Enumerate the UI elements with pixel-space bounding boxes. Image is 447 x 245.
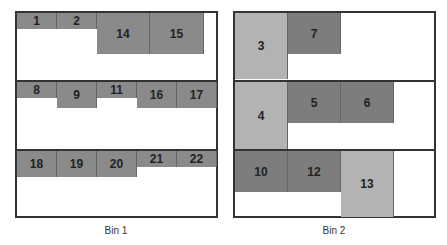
item-21: 21 bbox=[137, 151, 177, 167]
item-12: 12 bbox=[288, 151, 341, 192]
item-6: 6 bbox=[341, 82, 394, 123]
item-10: 10 bbox=[235, 151, 288, 192]
bin-2-label: Bin 2 bbox=[284, 225, 384, 236]
item-20: 20 bbox=[97, 151, 137, 177]
item-17: 17 bbox=[177, 82, 217, 108]
item-7: 7 bbox=[288, 13, 341, 54]
item-11: 11 bbox=[97, 82, 137, 98]
bin-1-row-3: 1819202122 bbox=[17, 149, 216, 216]
bin-2-row-3: 101213 bbox=[235, 149, 434, 216]
bin-1-label: Bin 1 bbox=[66, 225, 166, 236]
item-1: 1 bbox=[17, 13, 57, 29]
bin-1: 121415 89111617 1819202122 bbox=[15, 11, 218, 218]
item-3: 3 bbox=[235, 13, 288, 79]
bin-2-row-2: 456 bbox=[235, 80, 434, 149]
bin-1-row-1: 121415 bbox=[17, 13, 216, 80]
item-9: 9 bbox=[57, 82, 97, 108]
item-22: 22 bbox=[177, 151, 217, 167]
item-8: 8 bbox=[17, 82, 57, 98]
bin-2: 37 456 101213 bbox=[233, 11, 436, 218]
item-5: 5 bbox=[288, 82, 341, 123]
item-16: 16 bbox=[137, 82, 177, 108]
item-19: 19 bbox=[57, 151, 97, 177]
item-15: 15 bbox=[150, 13, 204, 54]
bin-1-row-2: 89111617 bbox=[17, 80, 216, 149]
item-2: 2 bbox=[57, 13, 97, 29]
item-14: 14 bbox=[97, 13, 150, 54]
item-13: 13 bbox=[341, 151, 394, 217]
bin-2-row-1: 37 bbox=[235, 13, 434, 80]
item-4: 4 bbox=[235, 82, 288, 149]
item-18: 18 bbox=[17, 151, 57, 177]
